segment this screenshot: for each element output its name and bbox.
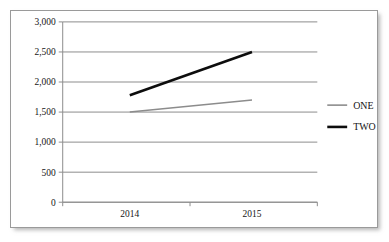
gridline-group <box>63 22 318 202</box>
y-axis-labels: 05001,0001,5002,0002,5003,000 <box>35 17 57 207</box>
y-tick-label: 3,000 <box>35 17 57 27</box>
legend-label-one: ONE <box>353 100 373 111</box>
x-tick-group <box>63 202 318 206</box>
chart-legend: ONETWO <box>327 100 375 133</box>
chart-figure-frame: 05001,0001,5002,0002,5003,000 20142015 O… <box>10 10 378 228</box>
series-line-one <box>130 100 252 112</box>
x-tick-label: 2015 <box>243 209 262 219</box>
y-tick-label: 0 <box>51 198 56 208</box>
y-tick-label: 2,500 <box>35 47 57 57</box>
x-axis-labels: 20142015 <box>120 209 261 219</box>
y-tick-label: 2,000 <box>35 77 57 87</box>
x-tick-label: 2014 <box>120 209 139 219</box>
y-tick-label: 500 <box>42 168 56 178</box>
line-chart: 05001,0001,5002,0002,5003,000 20142015 O… <box>11 11 377 227</box>
chart-svg: 05001,0001,5002,0002,5003,000 20142015 O… <box>11 11 377 227</box>
y-tick-group <box>59 22 63 202</box>
series-line-two <box>130 52 252 95</box>
y-tick-label: 1,500 <box>35 107 57 117</box>
legend-label-two: TWO <box>353 122 376 133</box>
y-tick-label: 1,000 <box>35 138 57 148</box>
